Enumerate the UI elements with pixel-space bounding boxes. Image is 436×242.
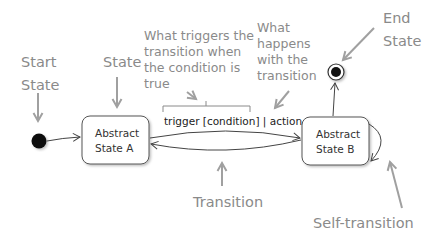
transition-label: trigger [condition] | action [164, 115, 302, 127]
self-transition-annotation: Self-transition [313, 212, 414, 235]
start-state-annotation: Start State [21, 51, 59, 97]
start-state-node[interactable] [32, 134, 47, 149]
action-note-line: What [257, 20, 317, 36]
state-annotation: State [103, 51, 141, 74]
state-b-label-line: State B [316, 142, 360, 157]
trigger-note-line: the condition is [144, 60, 254, 76]
trigger-note-annotation: What triggers the transition when the co… [144, 28, 254, 92]
trigger-note-line: transition when [144, 44, 254, 60]
action-note-line: transition [257, 68, 317, 84]
action-note-annotation: What happens with the transition [257, 20, 317, 84]
b-self-transition[interactable] [369, 124, 381, 161]
self-transition-pointer-arrow [390, 162, 402, 208]
transition-annotation: Transition [193, 191, 263, 214]
state-b-label: Abstract State B [316, 127, 360, 157]
end-state-annotation: End State [383, 7, 421, 53]
start-state-annotation-line: Start [21, 51, 59, 74]
state-a-label-line: Abstract [95, 126, 139, 141]
end-state-annotation-line: End [383, 7, 421, 30]
action-note-pointer-arrow [275, 91, 289, 108]
trigger-note-line: What triggers the [144, 28, 254, 44]
b-to-end-transition [333, 83, 335, 116]
end-state-annotation-line: State [383, 30, 421, 53]
state-b-label-line: Abstract [316, 127, 360, 142]
state-a-label-line: State A [95, 141, 139, 156]
trigger-note-line: true [144, 76, 254, 92]
action-note-line: happens [257, 36, 317, 52]
trigger-condition-bracket [163, 101, 250, 112]
b-to-a-transition[interactable] [151, 140, 301, 150]
start-to-a-transition [47, 137, 80, 141]
action-note-line: with the [257, 52, 317, 68]
a-to-b-transition[interactable] [150, 131, 300, 138]
trigger-note-pointer-arrow [187, 92, 196, 99]
state-a-label: Abstract State A [95, 126, 139, 156]
end-state-pointer-arrow [343, 28, 374, 60]
start-state-annotation-line: State [21, 74, 59, 97]
end-state-inner-dot [331, 67, 341, 77]
